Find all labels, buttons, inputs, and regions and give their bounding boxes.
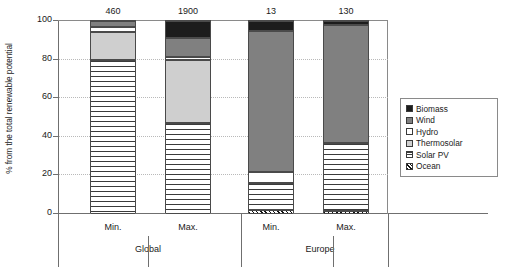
stacked-bar[interactable] <box>248 20 294 213</box>
y-tick-label: 80 <box>8 53 52 63</box>
legend-item-biomass[interactable]: Biomass <box>406 103 493 115</box>
x-axis-separator <box>58 214 59 267</box>
bar-value-label: 460 <box>78 6 148 16</box>
legend: BiomassWindHydroThermosolarSolar PVOcean <box>400 98 498 177</box>
legend-label: Hydro <box>416 127 438 137</box>
bar-segment-solarpv[interactable] <box>324 143 368 212</box>
bar-segment-wind[interactable] <box>91 21 135 27</box>
legend-swatch-biomass-icon <box>406 105 413 112</box>
bar-value-label: 130 <box>311 6 381 16</box>
x-axis-separator <box>333 236 334 267</box>
bar-segment-solarpv[interactable] <box>249 183 293 210</box>
plot-area <box>58 20 388 213</box>
chart-container: % from the total renewable potential 020… <box>0 0 508 268</box>
bar-segment-biomass[interactable] <box>249 21 293 31</box>
stacked-bar[interactable] <box>90 20 136 213</box>
legend-label: Solar PV <box>416 150 449 160</box>
bar-segments <box>324 21 368 213</box>
legend-label: Thermosolar <box>416 138 463 148</box>
bar-value-label: 13 <box>236 6 306 16</box>
legend-swatch-hydro-icon <box>406 128 413 135</box>
y-tick-label: 0 <box>8 207 52 217</box>
bar-segments <box>249 21 293 213</box>
bar-segment-biomass[interactable] <box>324 21 368 25</box>
legend-swatch-ocean-icon <box>406 163 413 170</box>
bar-segment-wind[interactable] <box>324 25 368 143</box>
bar-segment-ocean[interactable] <box>324 211 368 214</box>
legend-item-ocean[interactable]: Ocean <box>406 161 493 173</box>
legend-item-solarpv[interactable]: Solar PV <box>406 149 493 161</box>
x-axis-separator <box>148 236 149 267</box>
legend-item-wind[interactable]: Wind <box>406 115 493 127</box>
legend-label: Ocean <box>416 161 440 171</box>
legend-swatch-solarpv-icon <box>406 151 413 158</box>
legend-item-thermosolar[interactable]: Thermosolar <box>406 138 493 150</box>
bar-value-label: 1900 <box>153 6 223 16</box>
bar-segment-biomass[interactable] <box>166 21 210 38</box>
x-axis-separator <box>241 214 242 267</box>
legend-item-hydro[interactable]: Hydro <box>406 126 493 138</box>
bar-segment-hydro[interactable] <box>91 27 135 32</box>
x-axis-separator <box>388 214 389 267</box>
bar-segments <box>91 21 135 213</box>
x-category-label: Max. <box>301 222 391 232</box>
y-tick-label: 40 <box>8 130 52 140</box>
x-category-label: Max. <box>143 222 233 232</box>
legend-label: Wind <box>416 115 435 125</box>
stacked-bar[interactable] <box>323 20 369 213</box>
x-group-label: Europe <box>245 244 395 254</box>
y-tick-label: 100 <box>8 14 52 24</box>
bar-segment-thermosolar[interactable] <box>166 60 210 124</box>
bar-segment-hydro[interactable] <box>166 57 210 60</box>
bar-segment-ocean[interactable] <box>249 210 293 214</box>
y-tick-label: 20 <box>8 168 52 178</box>
legend-swatch-thermosolar-icon <box>406 140 413 147</box>
bar-segments <box>166 21 210 213</box>
stacked-bar[interactable] <box>165 20 211 213</box>
legend-swatch-wind-icon <box>406 117 413 124</box>
bar-segment-thermosolar[interactable] <box>91 32 135 60</box>
bar-segment-solarpv[interactable] <box>91 60 135 214</box>
y-tick-label: 60 <box>8 91 52 101</box>
bar-segment-hydro[interactable] <box>249 172 293 184</box>
bar-segment-solarpv[interactable] <box>166 123 210 214</box>
bar-segment-wind[interactable] <box>249 31 293 172</box>
bar-segment-wind[interactable] <box>166 38 210 56</box>
legend-label: Biomass <box>416 104 448 114</box>
